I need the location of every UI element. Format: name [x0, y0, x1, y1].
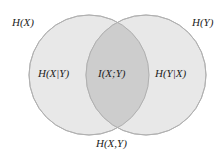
label-hx: H(X): [12, 17, 34, 28]
label-hx-given-y: H(X|Y): [38, 68, 69, 79]
label-mutual-information: I(X;Y): [98, 68, 126, 79]
label-hy: H(Y): [192, 17, 213, 28]
label-hy-given-x: H(Y|X): [155, 68, 186, 79]
label-joint-entropy: H(X,Y): [96, 138, 127, 149]
